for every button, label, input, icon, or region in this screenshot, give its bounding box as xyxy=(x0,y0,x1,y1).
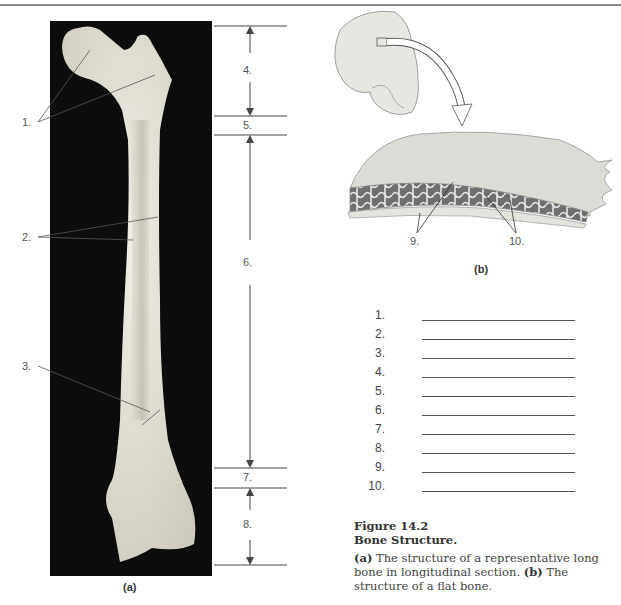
answer-line[interactable] xyxy=(422,377,575,378)
figure-title: Bone Structure. xyxy=(354,533,619,547)
caption-a-marker: (a) xyxy=(354,551,372,565)
panel-b-caption: (b) xyxy=(474,263,488,275)
label-5: 5. xyxy=(243,119,252,131)
figure-description: (a) The structure of a representative lo… xyxy=(354,551,619,593)
label-1: 1. xyxy=(22,116,31,128)
answer-line[interactable] xyxy=(422,472,575,473)
answer-number: 9. xyxy=(355,460,385,474)
figure-number: Figure 14.2 xyxy=(354,519,619,533)
label-2: 2. xyxy=(22,231,31,243)
diagram-overlay xyxy=(0,0,621,605)
answer-number: 10. xyxy=(355,479,385,493)
label-3: 3. xyxy=(22,360,31,372)
answer-line[interactable] xyxy=(422,396,575,397)
label-6: 6. xyxy=(243,256,252,268)
label-10: 10. xyxy=(509,235,524,247)
panel-a-caption: (a) xyxy=(123,581,136,593)
answer-line[interactable] xyxy=(422,415,575,416)
label-7: 7. xyxy=(243,471,252,483)
answer-number: 8. xyxy=(355,441,385,455)
answer-line[interactable] xyxy=(422,358,575,359)
answer-number: 3. xyxy=(355,346,385,360)
enlarge-arrow-icon xyxy=(452,104,472,126)
answer-line[interactable] xyxy=(422,434,575,435)
figure-caption: Figure 14.2 Bone Structure. (a) The stru… xyxy=(354,519,619,593)
answer-number: 7. xyxy=(355,422,385,436)
answer-number: 1. xyxy=(355,308,385,322)
label-9: 9. xyxy=(410,235,419,247)
label-4: 4. xyxy=(243,64,252,76)
answer-line[interactable] xyxy=(422,453,575,454)
answer-line[interactable] xyxy=(422,339,575,340)
femur-bone xyxy=(62,26,195,562)
answer-number: 5. xyxy=(355,384,385,398)
flat-bone-section xyxy=(348,132,612,228)
answer-line[interactable] xyxy=(422,491,575,492)
answer-number: 4. xyxy=(355,365,385,379)
label-8: 8. xyxy=(243,518,252,530)
skull-illustration xyxy=(335,11,472,126)
answer-number: 6. xyxy=(355,403,385,417)
caption-b-marker: (b) xyxy=(524,565,543,579)
answer-line[interactable] xyxy=(422,320,575,321)
answer-number: 2. xyxy=(355,327,385,341)
